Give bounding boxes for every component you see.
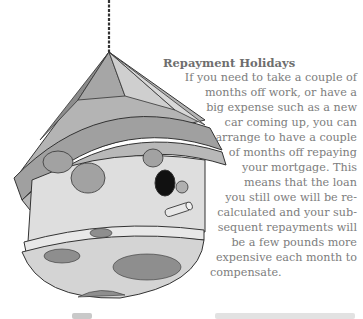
section-heading: Repayment Holidays <box>163 56 295 70</box>
entrance-hole <box>155 170 175 196</box>
body-line: arrange to have a couple <box>215 131 357 145</box>
body-line: big expense such as a new <box>206 101 357 115</box>
body-line: of months off repaying <box>229 146 357 160</box>
body-line: months off work, or have a <box>205 86 357 100</box>
body-line: sequent repayments will <box>218 221 357 235</box>
birdhouse-illustration <box>0 0 230 300</box>
body-line: expensive each month to <box>216 251 357 265</box>
body-line: you still owe will be re- <box>225 191 357 205</box>
body-line: If you need to take a couple of <box>185 71 357 85</box>
cropped-text-fragment <box>72 313 92 319</box>
body-line: calculated and your sub- <box>217 206 357 220</box>
body-line: be a few pounds more <box>231 236 357 250</box>
body-line: compensate. <box>210 266 282 280</box>
body-line: means that the loan <box>244 176 357 190</box>
body-line: your mortgage. This <box>242 161 357 175</box>
cropped-text-fragment <box>215 313 355 319</box>
body-line: car coming up, you can <box>225 116 357 130</box>
